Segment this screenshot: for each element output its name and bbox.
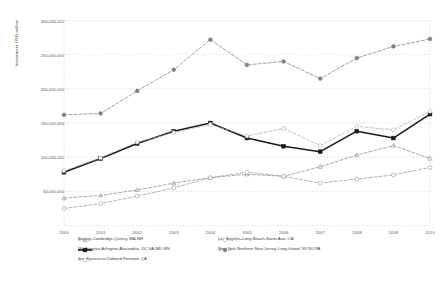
data-point-marker	[392, 136, 396, 140]
data-point-marker	[428, 109, 432, 113]
data-point-marker	[318, 144, 322, 148]
series-line	[64, 111, 430, 170]
legend-item[interactable]: Los Angeles-Long Beach-Santa Ana, CA	[218, 237, 293, 241]
data-point-marker	[318, 77, 322, 81]
data-point-marker	[223, 248, 227, 252]
data-point-marker	[282, 174, 286, 178]
data-point-marker	[135, 140, 139, 144]
data-point-marker	[99, 156, 103, 160]
legend-label: New York-Northern New Jersey-Long Island…	[218, 247, 320, 251]
data-point-marker	[245, 134, 249, 138]
data-point-marker	[282, 144, 286, 148]
data-point-marker	[428, 37, 432, 41]
data-point-marker	[172, 131, 176, 135]
data-point-marker	[282, 127, 286, 131]
series-5	[62, 166, 432, 211]
data-point-marker	[62, 113, 66, 117]
data-point-marker	[62, 169, 66, 173]
data-point-marker	[318, 150, 322, 154]
data-point-marker	[245, 170, 249, 174]
data-point-marker	[355, 56, 359, 60]
data-point-marker	[62, 207, 66, 211]
data-point-marker	[355, 125, 359, 129]
data-point-marker	[355, 177, 359, 181]
data-point-marker	[392, 173, 396, 177]
legend-marker-icon	[78, 237, 92, 243]
data-point-marker	[428, 166, 432, 170]
data-point-marker	[392, 45, 396, 49]
data-point-marker	[355, 129, 359, 133]
legend-marker-icon	[218, 247, 232, 253]
data-point-marker	[172, 68, 176, 72]
data-point-marker	[209, 122, 213, 126]
series-4	[62, 37, 432, 117]
chart-legend: Boston-Cambridge-Quincy, MA-NHWashington…	[78, 237, 428, 277]
data-point-marker	[245, 63, 249, 67]
legend-item[interactable]: Washington-Arlington-Alexandria, DC-VA-M…	[78, 247, 170, 251]
data-point-marker	[83, 258, 87, 262]
data-point-marker	[392, 128, 396, 132]
data-point-marker	[282, 60, 286, 64]
grid-lines	[64, 21, 430, 226]
chart-container: Investment USD million 300,000,000250,00…	[0, 0, 446, 289]
data-point-marker	[172, 186, 176, 190]
legend-item[interactable]: Boston-Cambridge-Quincy, MA-NH	[78, 237, 143, 241]
data-point-marker	[318, 181, 322, 185]
data-point-marker	[135, 89, 139, 93]
series-line	[64, 39, 430, 115]
series-3	[62, 109, 432, 172]
data-point-marker	[99, 202, 103, 206]
data-point-marker	[209, 176, 213, 180]
legend-marker-icon	[218, 237, 232, 243]
legend-item[interactable]: San Francisco-Oakland-Fremont, CA	[78, 257, 147, 261]
data-point-marker	[99, 112, 103, 116]
series-2	[62, 112, 432, 174]
data-point-marker	[83, 248, 87, 252]
legend-marker-icon	[78, 247, 92, 253]
data-point-marker	[135, 194, 139, 198]
data-point-marker	[223, 238, 227, 242]
legend-item[interactable]: New York-Northern New Jersey-Long Island…	[218, 247, 320, 251]
data-point-marker	[209, 38, 213, 42]
legend-marker-icon	[78, 257, 92, 263]
